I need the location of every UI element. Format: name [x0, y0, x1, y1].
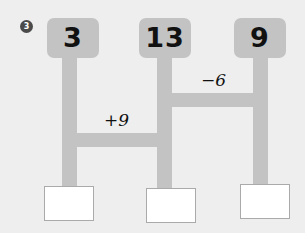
connector-left-to-middle — [62, 133, 172, 147]
operation-label-left: +9 — [104, 110, 129, 130]
answer-box-right[interactable] — [240, 184, 290, 219]
problem-number-badge: 3 — [20, 20, 33, 33]
value-box-left: 3 — [47, 18, 99, 58]
connector-middle-to-right — [157, 93, 268, 107]
value-box-middle: 13 — [139, 18, 191, 58]
operation-label-right: −6 — [201, 70, 226, 90]
stem-middle — [157, 55, 172, 193]
stem-right — [253, 55, 268, 193]
stem-left — [62, 55, 77, 193]
worksheet-canvas: 3 3 13 9 +9 −6 — [0, 0, 305, 233]
answer-box-middle[interactable] — [146, 188, 196, 223]
value-box-right: 9 — [234, 18, 286, 58]
answer-box-left[interactable] — [44, 186, 94, 221]
